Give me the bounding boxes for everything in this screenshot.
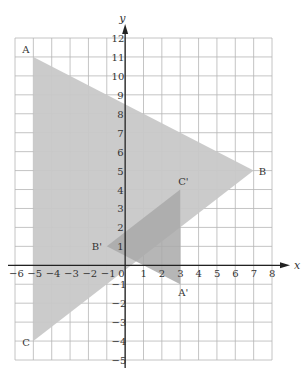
x-tick-label: −5	[27, 268, 42, 279]
x-tick-label: 5	[214, 268, 220, 279]
x-axis-arrow-icon	[280, 262, 290, 268]
x-axis-label: x	[294, 259, 301, 272]
x-tick-label: 2	[159, 268, 165, 279]
x-tick-label: 0	[118, 268, 124, 279]
y-tick-label: −2	[112, 298, 127, 309]
vertex-label-a-prime: A'	[177, 287, 188, 298]
y-tick-label: −1	[112, 279, 127, 290]
x-tick-label: −4	[46, 268, 61, 279]
y-tick-label: 10	[112, 71, 125, 82]
y-axis-label: y	[118, 12, 126, 25]
y-tick-label: 2	[117, 222, 123, 233]
x-tick-label: −6	[9, 268, 24, 279]
y-tick-label: 1	[117, 241, 123, 252]
x-tick-label: 7	[251, 268, 257, 279]
y-tick-label: 3	[117, 203, 123, 214]
vertex-label-c-prime: C'	[178, 176, 188, 187]
y-tick-label: 6	[117, 147, 123, 158]
y-tick-label: −5	[112, 355, 127, 366]
y-tick-label: 4	[117, 185, 123, 196]
x-tick-label: 4	[196, 268, 202, 279]
y-tick-label: 8	[117, 109, 123, 120]
y-tick-label: −3	[112, 317, 127, 328]
vertex-label-a: A	[21, 44, 30, 55]
x-tick-label: 6	[232, 268, 238, 279]
y-tick-label: 5	[117, 166, 123, 177]
coordinate-plane: xy −6−5−4−3−2−1012345678121110987654321−…	[0, 0, 303, 380]
y-tick-label: 9	[117, 90, 123, 101]
x-tick-label: 3	[177, 268, 183, 279]
vertex-label-b-prime: B'	[92, 241, 102, 252]
x-tick-label: −3	[64, 268, 79, 279]
x-tick-label: −2	[82, 268, 97, 279]
x-tick-label: −1	[101, 268, 116, 279]
y-tick-label: −4	[112, 336, 127, 347]
vertex-label-c: C	[22, 337, 30, 348]
vertex-label-b: B	[259, 166, 266, 177]
x-tick-label: 8	[269, 268, 275, 279]
y-tick-label: 12	[112, 33, 125, 44]
y-tick-label: 11	[112, 52, 125, 63]
y-tick-label: 7	[117, 128, 123, 139]
x-tick-label: 1	[141, 268, 147, 279]
